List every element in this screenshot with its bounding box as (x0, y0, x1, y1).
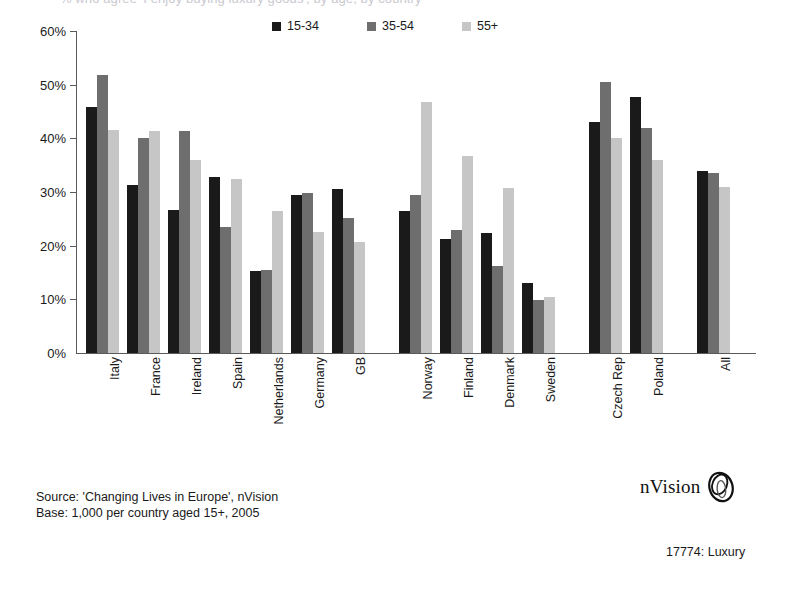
x-tick-label: Ireland (190, 357, 204, 395)
bar (719, 187, 730, 353)
bar (410, 195, 421, 353)
bar (231, 179, 242, 353)
bar (481, 233, 492, 353)
bar (533, 300, 544, 353)
bar (343, 218, 354, 353)
source-note: Source: 'Changing Lives in Europe', nVis… (36, 489, 278, 521)
bar (179, 131, 190, 353)
bar (451, 230, 462, 353)
source-line-1: Source: 'Changing Lives in Europe', nVis… (36, 489, 278, 505)
x-tick-label: Norway (421, 357, 435, 399)
bar (190, 160, 201, 353)
x-tick-label: Sweden (544, 357, 558, 402)
x-tick-label: Italy (108, 357, 122, 380)
y-tick-mark (70, 31, 77, 32)
x-tick-label: Denmark (503, 357, 517, 408)
x-tick-label: Poland (652, 357, 666, 396)
nvision-ellipse-logo-icon (704, 470, 738, 504)
bar (440, 239, 451, 353)
bar (641, 128, 652, 353)
bar (97, 75, 108, 353)
bar (209, 177, 220, 353)
bar (503, 188, 514, 353)
x-tick-label: Germany (313, 357, 327, 408)
bar (138, 138, 149, 353)
y-tick-mark (70, 299, 77, 300)
y-tick-mark (70, 138, 77, 139)
bar (302, 193, 313, 353)
x-tick-label: France (149, 357, 163, 396)
bar (354, 242, 365, 353)
bar (261, 270, 272, 353)
bar (272, 211, 283, 353)
bar (250, 271, 261, 353)
bar (108, 130, 119, 353)
x-tick-label: Netherlands (272, 357, 286, 424)
bar (462, 156, 473, 353)
bar (589, 122, 600, 353)
bar (492, 266, 503, 353)
brand-name: nVision (640, 476, 700, 498)
source-line-2: Base: 1,000 per country aged 15+, 2005 (36, 505, 278, 521)
bar (652, 160, 663, 353)
bar (421, 102, 432, 353)
bar (399, 211, 410, 353)
bar (697, 171, 708, 353)
bar (149, 131, 160, 353)
bar (611, 138, 622, 353)
x-tick-label: Czech Rep (611, 357, 625, 419)
x-tick-label: All (719, 357, 733, 371)
chart-plot-area: 0%10%20%30%40%50%60% ItalyFranceIrelandS… (0, 0, 808, 460)
bar (313, 232, 324, 353)
bar (600, 82, 611, 353)
x-tick-label: Spain (231, 357, 245, 389)
bar (630, 97, 641, 353)
bar (127, 185, 138, 354)
y-tick-mark (70, 85, 77, 86)
bar (544, 297, 555, 353)
bar (220, 227, 231, 353)
document-reference: 17774: Luxury (666, 545, 745, 559)
y-tick-mark (70, 246, 77, 247)
bar (708, 173, 719, 353)
x-tick-label: GB (354, 357, 368, 375)
bar (332, 189, 343, 353)
bar (86, 107, 97, 353)
bar (291, 195, 302, 353)
bar (168, 210, 179, 353)
x-tick-label: Finland (462, 357, 476, 398)
y-tick-mark (70, 192, 77, 193)
bar (522, 283, 533, 353)
nvision-brand: nVision (640, 470, 738, 504)
x-axis-labels: ItalyFranceIrelandSpainNetherlandsGerman… (0, 357, 808, 457)
